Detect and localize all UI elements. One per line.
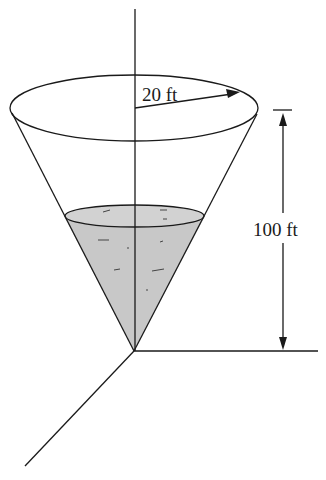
cone-tank-diagram: 20 ft 100 ft <box>0 0 326 480</box>
x-axis <box>25 351 134 466</box>
radius-label: 20 ft <box>142 84 178 105</box>
height-label: 100 ft <box>253 219 299 240</box>
height-arrow-down-icon <box>279 337 287 350</box>
height-arrow-up-icon <box>279 113 287 126</box>
